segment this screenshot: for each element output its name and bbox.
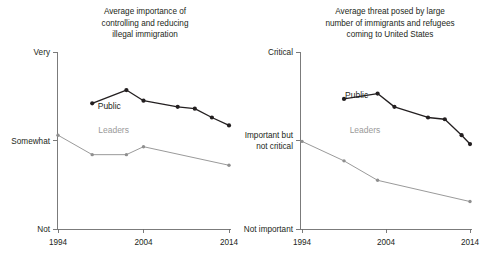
y-tick-label: Very (34, 48, 51, 57)
data-point-leaders (227, 164, 230, 167)
x-tick-label: 2004 (377, 238, 396, 247)
series-label-public: Public (345, 90, 369, 100)
series-label-leaders: Leaders (350, 125, 381, 135)
data-point-leaders (468, 200, 471, 203)
data-point-public (193, 107, 197, 111)
chart-panel-left: Average importance ofcontrolling and red… (0, 0, 241, 269)
chart-title: Average importance ofcontrolling and red… (102, 7, 189, 39)
data-point-public (426, 115, 430, 119)
series-label-leaders: Leaders (98, 125, 129, 135)
y-tick-label: Not important (244, 225, 294, 234)
data-point-leaders (56, 133, 59, 136)
data-point-leaders (342, 159, 345, 162)
chart-title-line: Average threat posed by large (335, 7, 445, 16)
series-line-public (344, 94, 470, 144)
x-tick-label: 1994 (293, 238, 312, 247)
y-tick-label: Important but (245, 131, 294, 140)
series-public: Public (90, 88, 231, 128)
x-tick-label: 2014 (220, 238, 239, 247)
data-point-leaders (91, 153, 94, 156)
chart-title-line: controlling and reducing (102, 19, 189, 28)
data-point-public (460, 133, 464, 137)
chart-panel-right: Average threat posed by largenumber of i… (241, 0, 482, 269)
data-point-public (376, 91, 380, 95)
data-point-public (227, 123, 231, 127)
series-public: Public (342, 90, 472, 146)
chart-title-line: coming to United States (347, 30, 434, 39)
data-point-leaders (300, 140, 303, 143)
data-point-leaders (376, 179, 379, 182)
y-tick-label: not critical (256, 142, 293, 151)
x-tick-label: 2004 (134, 238, 153, 247)
series-leaders: Leaders (300, 125, 471, 203)
y-tick-label: Critical (268, 48, 293, 57)
y-axis-ticks: Not importantImportant butnot criticalCr… (244, 48, 300, 234)
line-chart-illegal-immigration-importance: Average importance ofcontrolling and red… (0, 0, 241, 269)
data-point-public (210, 115, 214, 119)
data-point-public (124, 88, 128, 92)
chart-title: Average threat posed by largenumber of i… (325, 7, 454, 39)
line-chart-immigration-threat: Average threat posed by largenumber of i… (241, 0, 482, 269)
x-tick-label: 2014 (461, 238, 480, 247)
series-line-leaders (58, 135, 229, 165)
figure-root: Average importance ofcontrolling and red… (0, 0, 482, 269)
data-point-public (468, 142, 472, 146)
chart-title-line: Average importance of (104, 7, 187, 16)
data-point-public (90, 101, 94, 105)
series-leaders: Leaders (56, 125, 230, 167)
x-axis-ticks: 199420042014 (293, 229, 480, 247)
data-point-leaders (125, 153, 128, 156)
y-tick-label: Somewhat (11, 137, 50, 146)
data-point-public (141, 99, 145, 103)
y-axis-ticks: NotSomewhatVery (11, 48, 57, 234)
chart-title-line: number of immigrants and refugees (325, 19, 454, 28)
data-point-public (176, 105, 180, 109)
data-point-leaders (142, 145, 145, 148)
data-point-public (443, 117, 447, 121)
data-point-public (392, 105, 396, 109)
x-axis-ticks: 199420042014 (49, 229, 239, 247)
series-label-public: Public (98, 101, 122, 111)
series-line-leaders (302, 141, 470, 201)
chart-title-line: illegal immigration (112, 30, 178, 39)
x-tick-label: 1994 (49, 238, 68, 247)
y-tick-label: Not (37, 225, 50, 234)
